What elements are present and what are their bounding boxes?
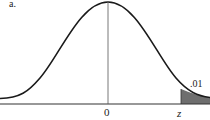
part-label: a. (9, 0, 16, 9)
normal-distribution-figure: a. 0 z .01 (0, 0, 210, 120)
tick-label-zero: 0 (104, 106, 110, 118)
bell-curve (0, 2, 210, 99)
tick-label-z: z (176, 107, 182, 119)
tail-area-label: .01 (190, 78, 203, 89)
